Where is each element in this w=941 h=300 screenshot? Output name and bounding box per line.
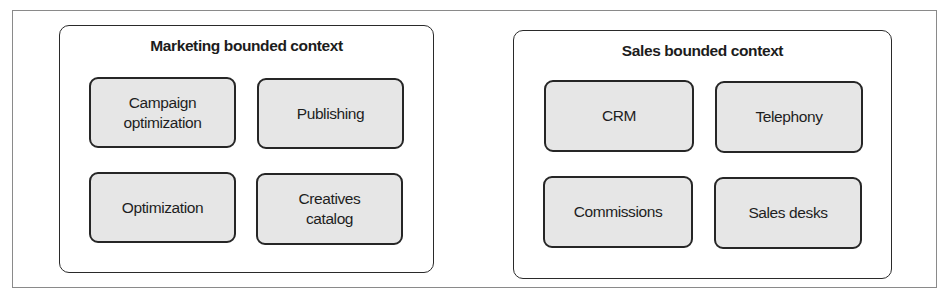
context-title: Sales bounded context: [514, 42, 891, 60]
subdomain-campaign-optimization: Campaign optimization: [89, 77, 236, 148]
subdomain-creatives-catalog: Creatives catalog: [256, 173, 403, 245]
subdomain-publishing: Publishing: [257, 78, 404, 149]
subdomain-label: Optimization: [122, 198, 203, 218]
subdomain-label: CRM: [602, 106, 636, 126]
subdomain-label: Commissions: [574, 202, 663, 222]
subdomain-commissions: Commissions: [543, 176, 693, 248]
subdomain-telephony: Telephony: [715, 81, 863, 153]
subdomain-label: Sales desks: [748, 203, 827, 223]
subdomain-label: Telephony: [755, 107, 822, 127]
subdomain-optimization: Optimization: [89, 172, 236, 243]
context-title: Marketing bounded context: [60, 37, 433, 55]
marketing-bounded-context: Marketing bounded context Campaign optim…: [59, 25, 434, 273]
subdomain-label: Publishing: [297, 104, 365, 124]
subdomain-label: Creatives catalog: [282, 189, 377, 229]
subdomain-sales-desks: Sales desks: [714, 177, 862, 249]
sales-bounded-context: Sales bounded context CRM Telephony Comm…: [513, 30, 892, 279]
subdomain-label: Campaign optimization: [115, 93, 210, 133]
subdomain-crm: CRM: [544, 80, 694, 152]
